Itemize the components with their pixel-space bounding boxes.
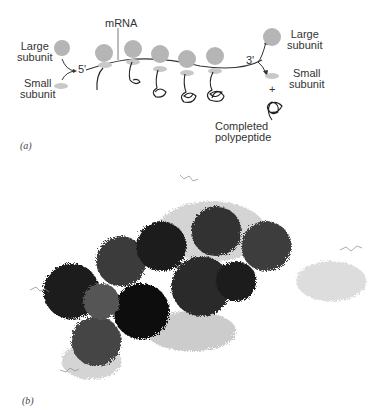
polysome-molecular-model — [0, 0, 370, 410]
panel-b-label: (b) — [22, 395, 34, 406]
